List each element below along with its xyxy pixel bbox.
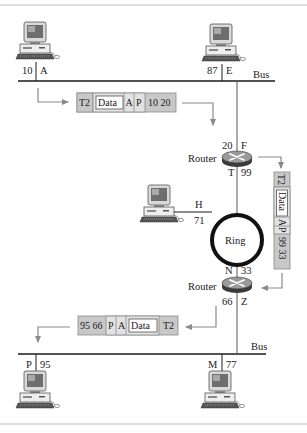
router-icon — [222, 277, 252, 293]
host-p-name: P — [26, 359, 32, 370]
host-e[interactable]: 87 E — [202, 24, 246, 81]
host-a[interactable]: 10 A — [16, 22, 60, 81]
router-bottom-z-name: Z — [241, 296, 247, 307]
computer-icon — [16, 371, 60, 408]
host-a-name: A — [40, 65, 48, 76]
frame-top-p: P — [136, 97, 142, 108]
router-bottom[interactable]: Router N 33 66 Z — [188, 265, 252, 307]
host-m-name: M — [208, 359, 218, 370]
host-p-address: 95 — [40, 359, 51, 370]
router-top-f-address: 20 — [222, 140, 233, 151]
host-p[interactable]: P 95 — [16, 354, 60, 408]
frame-bottom-data: Data — [131, 320, 150, 331]
host-m[interactable]: M 77 — [201, 354, 245, 408]
host-h-name: H — [195, 199, 203, 210]
arrow-frame-to-router — [182, 103, 213, 125]
frame-right-trailer: T2 — [276, 174, 287, 185]
frame-right-p: P — [277, 227, 288, 233]
frame-top-a: A — [126, 97, 134, 108]
host-m-address: 77 — [226, 359, 237, 370]
arrow-router-to-bottom-frame — [186, 306, 216, 327]
router-bottom-66-address: 66 — [222, 296, 233, 307]
frame-top-trailer: T2 — [79, 97, 90, 108]
bottom-bus-label: Bus — [251, 341, 267, 352]
arrow-a-to-frame — [38, 88, 68, 102]
frame-bottom-header: 95 66 — [80, 320, 103, 331]
frame-right-data: Data — [277, 192, 288, 211]
arrow-router-to-right-frame — [258, 157, 281, 168]
frame-top-header: 10 20 — [148, 97, 171, 108]
computer-icon — [202, 24, 246, 61]
router-icon — [222, 151, 252, 167]
frame-bottom: 95 66 P A Data T2 — [78, 316, 178, 335]
router-top-t-address: 99 — [241, 167, 252, 178]
arrow-frame-to-p — [38, 327, 70, 342]
frame-right-header: 99 33 — [277, 237, 288, 260]
frame-top-data: Data — [98, 97, 117, 108]
frame-top: T2 Data A P 10 20 — [77, 93, 176, 112]
frame-bottom-a: A — [118, 320, 126, 331]
host-e-address: 87 — [207, 65, 218, 76]
router-top-label: Router — [188, 153, 217, 164]
router-bottom-n-name: N — [225, 265, 233, 276]
router-bottom-label: Router — [188, 281, 217, 292]
computer-icon — [201, 371, 245, 408]
router-top-f-name: F — [241, 140, 247, 151]
frame-bottom-trailer: T2 — [163, 320, 174, 331]
host-h[interactable]: H 71 — [140, 185, 212, 226]
host-e-name: E — [226, 65, 232, 76]
ring-network: Ring — [212, 215, 262, 265]
computer-icon — [16, 22, 60, 59]
top-bus-label: Bus — [253, 69, 269, 80]
arrow-right-frame-to-router — [262, 273, 282, 288]
router-bottom-n-address: 33 — [241, 265, 252, 276]
router-top[interactable]: Router 20 F T 99 — [188, 140, 252, 178]
host-a-address: 10 — [22, 65, 33, 76]
network-diagram: Bus 10 A 87 E T2 Data A P 10 20 Router — [0, 0, 307, 433]
router-top-t-name: T — [228, 167, 235, 178]
frame-bottom-p: P — [108, 320, 114, 331]
host-h-address: 71 — [194, 215, 205, 226]
frame-right: T2 Data A P 99 33 — [274, 172, 290, 269]
computer-icon — [140, 185, 184, 222]
ring-label: Ring — [225, 235, 246, 246]
